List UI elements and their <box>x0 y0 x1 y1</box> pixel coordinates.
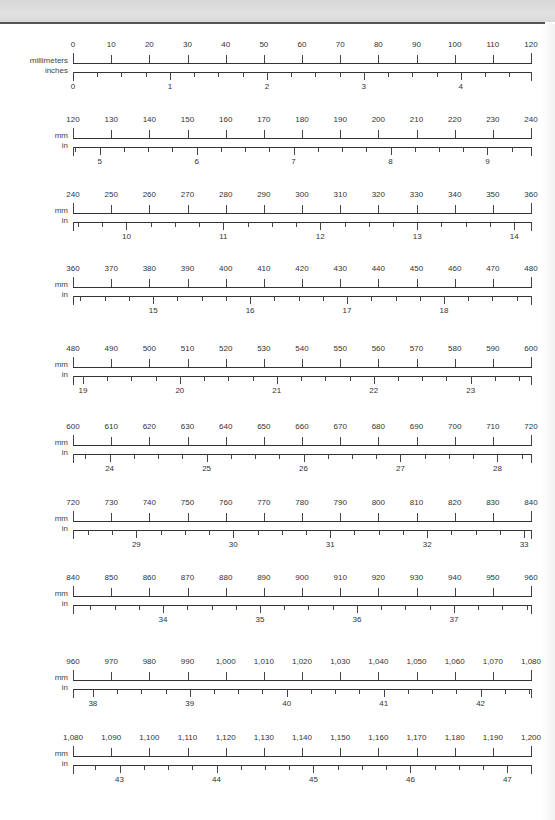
inch-end-tick <box>531 689 532 698</box>
inch-tick-label: 14 <box>510 232 519 241</box>
inch-major-tick <box>514 222 515 230</box>
mm-major-tick <box>111 588 112 596</box>
inch-major-tick <box>454 605 455 613</box>
mm-major-tick <box>111 279 112 287</box>
mm-unit-label: mm <box>0 673 68 682</box>
mm-tick-label: 430 <box>333 264 346 273</box>
mm-tick-label: 400 <box>219 264 232 273</box>
mm-scale-line <box>73 138 532 139</box>
mm-tick-label: 730 <box>104 498 117 507</box>
inch-minor-tick <box>262 689 263 694</box>
mm-major-tick <box>493 55 494 63</box>
mm-tick-label: 250 <box>104 190 117 199</box>
mm-tick-label: 260 <box>143 190 156 199</box>
mm-major-tick <box>493 513 494 521</box>
ruler-row: 1,0801,0901,1001,1101,1201,1301,1401,150… <box>0 733 555 793</box>
inch-minor-tick <box>151 222 152 227</box>
inch-minor-tick <box>121 72 122 77</box>
inch-minor-tick <box>311 689 312 694</box>
mm-major-tick <box>455 205 456 213</box>
inch-minor-tick <box>398 376 399 381</box>
mm-tick-label: 910 <box>333 573 346 582</box>
inch-minor-tick <box>146 72 147 77</box>
ruler-row: 240250260270280290300310320330340350360m… <box>0 190 555 250</box>
mm-tick-label: 760 <box>219 498 232 507</box>
inch-minor-tick <box>272 222 273 227</box>
inch-tick-label: 41 <box>379 699 388 708</box>
inch-unit-label: in <box>0 759 68 768</box>
inch-tick-label: 33 <box>520 540 529 549</box>
inch-tick-label: 24 <box>105 464 114 473</box>
inch-minor-tick <box>527 605 528 610</box>
mm-major-tick <box>417 55 418 63</box>
mm-tick-label: 840 <box>66 573 79 582</box>
inch-minor-tick <box>505 689 506 694</box>
inch-minor-tick <box>325 376 326 381</box>
inch-major-tick <box>93 689 94 697</box>
mm-tick-label: 570 <box>410 344 423 353</box>
inch-minor-tick <box>221 147 222 152</box>
mm-major-tick <box>340 359 341 367</box>
inch-major-tick <box>136 530 137 538</box>
mm-tick-label: 140 <box>143 115 156 124</box>
inch-minor-tick <box>483 765 484 770</box>
inch-minor-tick <box>502 605 503 610</box>
inch-tick-label: 5 <box>97 157 101 166</box>
mm-tick-label: 700 <box>448 422 461 431</box>
inch-minor-tick <box>238 689 239 694</box>
inch-end-tick <box>73 296 74 305</box>
inch-major-tick <box>233 530 234 538</box>
inch-unit-label: in <box>0 290 68 299</box>
mm-major-tick <box>417 588 418 596</box>
inch-tick-label: 2 <box>265 82 269 91</box>
inch-minor-tick <box>115 605 116 610</box>
mm-major-tick <box>188 748 189 756</box>
mm-major-tick <box>73 357 74 367</box>
mm-tick-label: 280 <box>219 190 232 199</box>
mm-tick-label: 720 <box>524 422 537 431</box>
inch-minor-tick <box>194 72 195 77</box>
mm-tick-label: 30 <box>183 40 192 49</box>
mm-tick-label: 10 <box>107 40 116 49</box>
inch-minor-tick <box>376 454 377 459</box>
inch-minor-tick <box>519 376 520 381</box>
inch-unit-label: in <box>0 524 68 533</box>
inch-minor-tick <box>306 530 307 535</box>
mm-tick-label: 1,150 <box>330 733 350 742</box>
inch-minor-tick <box>185 530 186 535</box>
inch-minor-tick <box>97 72 98 77</box>
mm-major-tick <box>417 205 418 213</box>
inch-minor-tick <box>228 376 229 381</box>
mm-tick-label: 690 <box>410 422 423 431</box>
inch-minor-tick <box>490 222 491 227</box>
mm-major-tick <box>264 55 265 63</box>
inch-scale-line <box>73 72 532 73</box>
mm-tick-label: 810 <box>410 498 423 507</box>
inch-minor-tick <box>236 605 237 610</box>
inch-end-tick <box>531 605 532 614</box>
inch-major-tick <box>267 72 268 80</box>
mm-major-tick <box>149 437 150 445</box>
mm-tick-label: 930 <box>410 573 423 582</box>
inch-scale-line <box>73 765 532 766</box>
inch-minor-tick <box>340 72 341 77</box>
inch-end-tick <box>73 530 74 539</box>
mm-major-tick <box>531 670 532 680</box>
mm-major-tick <box>455 513 456 521</box>
mm-major-tick <box>417 748 418 756</box>
inch-minor-tick <box>437 72 438 77</box>
inch-tick-label: 22 <box>369 386 378 395</box>
mm-major-tick <box>111 672 112 680</box>
inch-major-tick <box>374 376 375 384</box>
mm-tick-label: 1,200 <box>521 733 541 742</box>
inch-minor-tick <box>386 765 387 770</box>
mm-tick-label: 1,070 <box>483 657 503 666</box>
mm-tick-label: 840 <box>524 498 537 507</box>
inch-tick-label: 31 <box>326 540 335 549</box>
inch-minor-tick <box>107 376 108 381</box>
mm-major-tick <box>417 359 418 367</box>
mm-major-tick <box>378 55 379 63</box>
mm-tick-label: 1,130 <box>254 733 274 742</box>
inch-minor-tick <box>459 765 460 770</box>
mm-major-tick <box>531 511 532 521</box>
